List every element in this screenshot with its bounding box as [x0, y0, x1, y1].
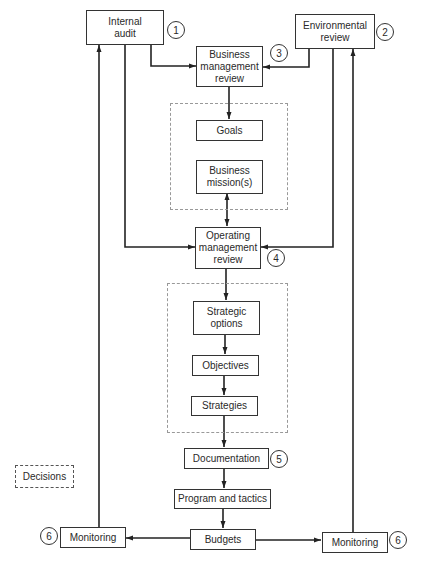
environmental-review-box: Environmental review — [295, 14, 375, 49]
strategies-box: Strategies — [191, 396, 258, 416]
step-6-left-badge: 6 — [40, 527, 58, 545]
step-6-right-badge: 6 — [389, 531, 407, 549]
program-and-tactics-box: Program and tactics — [174, 489, 271, 509]
monitoring-right-box: Monitoring — [322, 532, 388, 553]
business-missions-box: Business mission(s) — [196, 160, 263, 194]
business-management-review-box: Business management review — [196, 46, 263, 87]
step-2-badge: 2 — [376, 23, 394, 41]
decisions-legend: Decisions — [15, 465, 74, 488]
documentation-box: Documentation — [184, 448, 269, 469]
step-3-badge: 3 — [270, 44, 288, 62]
internal-audit-box: Internal audit — [86, 10, 164, 45]
operating-management-review-box: Operating management review — [195, 227, 261, 269]
step-4-badge: 4 — [267, 249, 285, 267]
strategic-options-box: Strategic options — [193, 301, 260, 335]
step-1-badge: 1 — [167, 21, 185, 39]
step-5-badge: 5 — [270, 450, 288, 468]
objectives-box: Objectives — [192, 355, 259, 376]
goals-box: Goals — [196, 120, 263, 141]
monitoring-left-box: Monitoring — [60, 527, 126, 548]
budgets-box: Budgets — [190, 529, 256, 550]
